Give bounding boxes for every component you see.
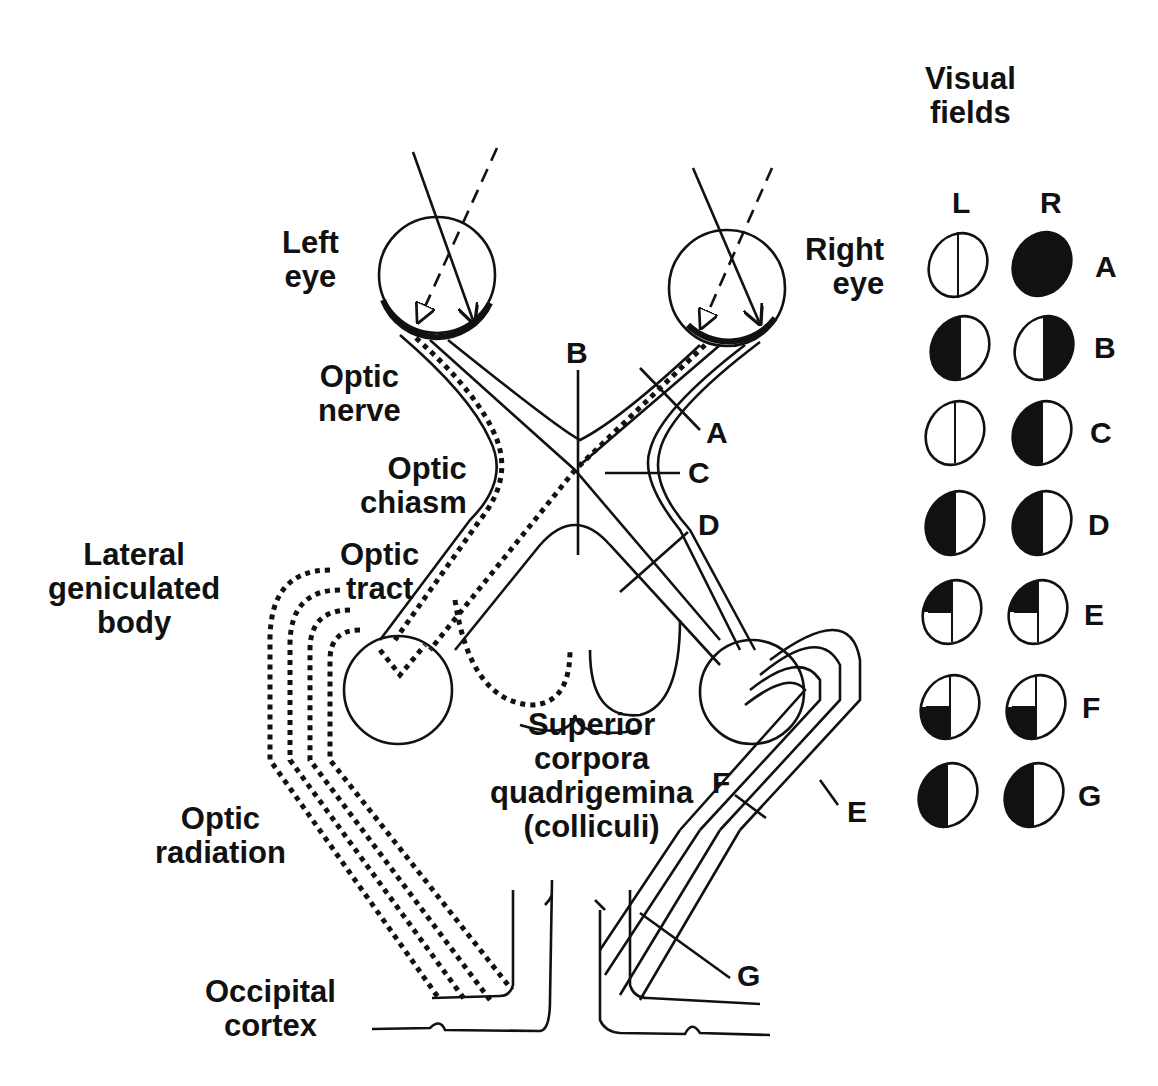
field-b-left (919, 305, 1000, 390)
label-optic-nerve: Optic nerve (318, 360, 401, 428)
field-d-left (914, 480, 995, 565)
column-left-label: L (952, 188, 970, 218)
lesion-line-d (620, 532, 688, 592)
field-g-left (907, 752, 988, 837)
label-occipital-cortex: Occipital cortex (205, 975, 336, 1043)
lesion-label-g: G (737, 961, 760, 991)
field-a-right (1001, 221, 1082, 306)
field-e-right (997, 569, 1078, 654)
field-c-left (914, 390, 995, 475)
label-optic-tract: Optic tract (340, 538, 419, 606)
lesion-label-d: D (698, 510, 720, 540)
label-lateral-geniculate-body: Lateral geniculated body (48, 538, 220, 640)
field-row-c-label: C (1090, 418, 1112, 448)
lesion-label-a: A (706, 418, 728, 448)
visual-fields-title: Visual fields (925, 62, 1016, 130)
field-row-b-label: B (1094, 333, 1116, 363)
field-row-d-label: D (1088, 510, 1110, 540)
field-d-right (1001, 480, 1082, 565)
label-left-eye: Left eye (282, 226, 339, 294)
left-eye-icon (379, 148, 497, 337)
field-b-right (1003, 305, 1084, 390)
lateral-geniculate-left (270, 570, 512, 1000)
right-eye-icon (669, 168, 785, 346)
lesion-line-a (640, 368, 700, 430)
lesion-label-f: F (712, 768, 730, 798)
field-f-left (909, 664, 990, 749)
field-a-left (917, 222, 998, 307)
label-optic-chiasm: Optic chiasm (360, 452, 467, 520)
field-row-a-label: A (1095, 252, 1117, 282)
field-e-left (911, 569, 992, 654)
lesion-line-e (820, 780, 838, 805)
lesion-label-e: E (847, 797, 867, 827)
lesion-label-c: C (688, 458, 710, 488)
label-superior-colliculi: Superior corpora quadrigemina (colliculi… (490, 708, 693, 844)
column-right-label: R (1040, 188, 1062, 218)
field-row-g-label: G (1078, 781, 1101, 811)
label-right-eye: Right eye (805, 233, 884, 301)
label-optic-radiation: Optic radiation (155, 802, 286, 870)
field-row-f-label: F (1082, 693, 1100, 723)
field-g-right (993, 752, 1074, 837)
field-f-right (995, 664, 1076, 749)
lesion-label-b: B (566, 338, 588, 368)
visual-field-grid (907, 221, 1084, 837)
field-row-e-label: E (1084, 600, 1104, 630)
field-c-right (1001, 390, 1082, 475)
